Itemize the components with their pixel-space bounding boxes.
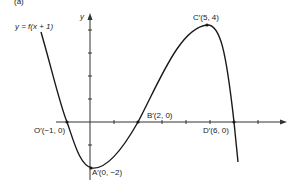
x-axis — [56, 120, 287, 125]
y-axis: y — [79, 12, 93, 180]
y-axis-label: y — [79, 12, 85, 21]
point-c-marker — [205, 23, 208, 26]
panel-label: (a) — [14, 0, 24, 6]
point-a-label: A′(0, −2) — [92, 168, 123, 177]
point-c-label: C′(5, 4) — [193, 13, 219, 22]
graph-canvas: (a) y y = f(x + 1) O′(−1, 0) A′(0, −2) B… — [0, 0, 289, 184]
point-d-marker — [232, 120, 235, 123]
point-o-label: O′(−1, 0) — [34, 126, 65, 135]
y-axis-arrow-icon — [88, 13, 93, 20]
function-curve — [41, 25, 238, 168]
point-b-marker — [136, 120, 139, 123]
x-axis-arrow-icon — [280, 120, 287, 125]
point-o-marker — [65, 120, 68, 123]
point-b-label: B′(2, 0) — [147, 111, 173, 120]
point-d-label: D′(6, 0) — [203, 126, 229, 135]
function-label: y = f(x + 1) — [14, 22, 54, 31]
